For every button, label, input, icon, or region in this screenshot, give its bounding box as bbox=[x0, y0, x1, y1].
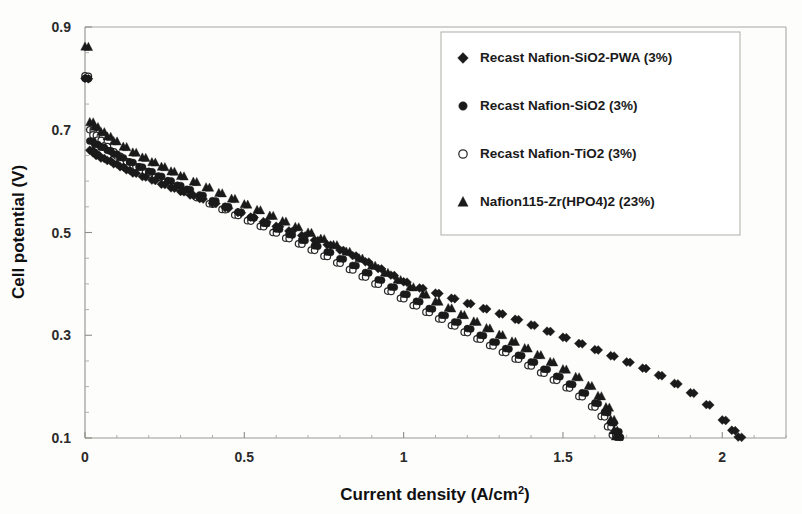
data-point bbox=[595, 400, 602, 407]
legend-item[interactable]: Recast Nafion-TiO2 (3%) bbox=[459, 146, 637, 161]
data-point bbox=[353, 262, 360, 269]
x-axis-title: Current density (A/cm2) bbox=[340, 484, 529, 504]
x-tick-label: 1.5 bbox=[553, 449, 573, 465]
data-point bbox=[582, 390, 589, 397]
y-tick-label: 0.7 bbox=[52, 122, 72, 138]
data-point bbox=[139, 164, 146, 171]
legend-item[interactable]: Recast Nafion-SiO2-PWA (3%) bbox=[458, 50, 673, 65]
data-point bbox=[493, 339, 500, 346]
data-point bbox=[149, 168, 156, 175]
legend-marker-circle-open bbox=[459, 150, 467, 158]
legend-marker-circle bbox=[459, 102, 467, 110]
data-point bbox=[391, 284, 398, 291]
legend-label: Nafion115-Zr(HPO4)2 (23%) bbox=[480, 194, 655, 209]
x-tick-label: 1 bbox=[400, 449, 408, 465]
data-point bbox=[518, 352, 525, 359]
data-point bbox=[480, 332, 487, 339]
data-point bbox=[120, 154, 127, 161]
data-point bbox=[467, 325, 474, 332]
x-tick-label: 0 bbox=[81, 449, 89, 465]
polarization-curve-chart: 00.511.520.10.30.50.70.9 Current density… bbox=[0, 0, 802, 514]
data-point bbox=[158, 173, 165, 180]
data-point bbox=[130, 159, 137, 166]
y-tick-label: 0.1 bbox=[52, 430, 72, 446]
x-tick-label: 2 bbox=[718, 449, 726, 465]
y-axis-title: Cell potential (V) bbox=[9, 165, 28, 299]
y-tick-label: 0.5 bbox=[52, 225, 72, 241]
data-point bbox=[531, 359, 538, 366]
legend-label: Recast Nafion-TiO2 (3%) bbox=[480, 146, 637, 161]
x-tick-label: 0.5 bbox=[235, 449, 255, 465]
legend-item[interactable]: Nafion115-Zr(HPO4)2 (23%) bbox=[458, 194, 655, 209]
data-point bbox=[442, 312, 449, 319]
legend-label: Recast Nafion-SiO2-PWA (3%) bbox=[480, 50, 672, 65]
chart-legend: Recast Nafion-SiO2-PWA (3%)Recast Nafion… bbox=[441, 32, 740, 235]
y-tick-label: 0.9 bbox=[52, 19, 72, 35]
legend-item[interactable]: Recast Nafion-SiO2 (3%) bbox=[459, 98, 638, 113]
legend-label: Recast Nafion-SiO2 (3%) bbox=[480, 98, 638, 113]
data-point bbox=[556, 373, 563, 380]
data-point bbox=[378, 277, 385, 284]
data-point bbox=[544, 366, 551, 373]
data-point bbox=[404, 291, 411, 298]
data-point bbox=[365, 269, 372, 276]
data-point bbox=[416, 298, 423, 305]
data-point bbox=[569, 381, 576, 388]
chart-figure: 00.511.520.10.30.50.70.9 Current density… bbox=[0, 0, 802, 514]
data-point bbox=[429, 305, 436, 312]
data-point bbox=[455, 319, 462, 326]
data-point bbox=[506, 346, 513, 353]
y-tick-label: 0.3 bbox=[52, 327, 72, 343]
data-point bbox=[340, 256, 347, 263]
